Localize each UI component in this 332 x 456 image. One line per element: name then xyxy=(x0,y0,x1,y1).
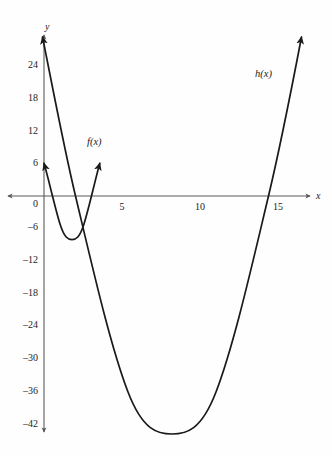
curve-h xyxy=(43,37,302,434)
y-tick-label-24: 24 xyxy=(12,60,38,70)
y-tick-label-neg18: –18 xyxy=(8,288,38,298)
y-tick-label-18: 18 xyxy=(12,93,38,103)
x-tick-label-10: 10 xyxy=(190,202,210,212)
y-tick-label-neg42: –42 xyxy=(8,419,38,429)
y-tick-label-neg6: –6 xyxy=(8,222,38,232)
x-tick-label-5: 5 xyxy=(112,202,132,212)
y-tick-label-0: 0 xyxy=(12,199,38,209)
y-tick-label-neg30: –30 xyxy=(8,353,38,363)
y-tick-label-12: 12 xyxy=(12,126,38,136)
graph-figure: 24 18 12 6 0 –6 –12 –18 –24 –30 –36 –42 … xyxy=(0,0,332,456)
y-tick-label-neg12: –12 xyxy=(8,255,38,265)
curve-f xyxy=(44,163,100,239)
y-tick-label-neg24: –24 xyxy=(8,320,38,330)
y-tick-label-6: 6 xyxy=(12,158,38,168)
curve-label-h: h(x) xyxy=(255,69,272,80)
y-axis-label: y xyxy=(45,22,49,32)
x-axis-label: x xyxy=(316,191,320,201)
y-tick-label-neg36: –36 xyxy=(8,386,38,396)
plot-canvas xyxy=(0,0,332,456)
curve-label-f: f(x) xyxy=(87,137,102,148)
x-tick-label-15: 15 xyxy=(268,202,288,212)
